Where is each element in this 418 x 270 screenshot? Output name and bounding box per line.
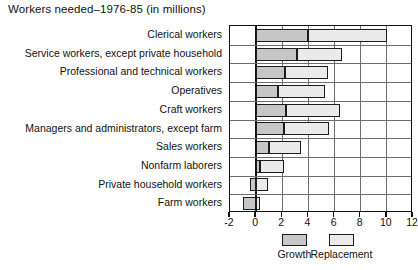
- category-label: Sales workers: [156, 137, 222, 156]
- bar-segment-replacement: [269, 141, 300, 154]
- bar-segment-replacement: [285, 66, 328, 79]
- x-axis-tick-labels: -2024681012: [229, 216, 412, 230]
- bar-segment-growth: [256, 29, 308, 42]
- bar-segment-replacement: [278, 85, 325, 98]
- x-axis-tick-label: 8: [357, 216, 363, 228]
- vertical-gridline: [360, 26, 361, 211]
- category-label: Service workers, except private househol…: [25, 44, 222, 63]
- bar-segment-replacement: [286, 104, 340, 117]
- category-label: Managers and administrators, except farm: [25, 119, 222, 138]
- horizontal-gridline: [230, 157, 411, 158]
- bar-segment-replacement: [256, 197, 260, 210]
- bar-segment-growth: [256, 141, 269, 154]
- x-axis-tick-label: 2: [278, 216, 284, 228]
- horizontal-gridline: [230, 120, 411, 121]
- category-label: Clerical workers: [147, 25, 222, 44]
- category-label: Professional and technical workers: [60, 62, 222, 81]
- horizontal-gridline: [230, 63, 411, 64]
- horizontal-gridline: [230, 82, 411, 83]
- category-label: Private household workers: [98, 175, 222, 194]
- x-axis-tick-label: 0: [252, 216, 258, 228]
- bar-segment-replacement: [256, 178, 268, 191]
- bar-segment-replacement: [297, 48, 343, 61]
- category-axis-labels: Clerical workersService workers, except …: [0, 25, 227, 212]
- category-label: Craft workers: [160, 100, 222, 119]
- legend-entry: Replacement: [301, 234, 381, 260]
- x-axis-tick-label: 4: [305, 216, 311, 228]
- x-axis-tick-label: 10: [380, 216, 392, 228]
- bar-segment-growth: [256, 104, 286, 117]
- horizontal-gridline: [230, 45, 411, 46]
- horizontal-gridline: [230, 101, 411, 102]
- bar-segment-growth: [256, 66, 285, 79]
- category-label: Farm workers: [158, 193, 222, 212]
- bar-segment-growth: [256, 122, 283, 135]
- x-axis-tick-label: -2: [224, 216, 233, 228]
- bar-segment-replacement: [284, 122, 330, 135]
- legend-swatch: [329, 234, 354, 246]
- vertical-gridline: [386, 26, 387, 211]
- chart-title: Workers needed–1976-85 (in millions): [8, 3, 206, 15]
- bar-segment-replacement: [308, 29, 386, 42]
- bar-segment-growth: [256, 48, 297, 61]
- horizontal-gridline: [230, 176, 411, 177]
- category-label: Operatives: [171, 81, 222, 100]
- category-label: Nonfarm laborers: [141, 156, 222, 175]
- bar-segment-growth: [243, 197, 256, 210]
- chart-legend: GrowthReplacement: [229, 234, 412, 266]
- plot-area: [229, 25, 412, 212]
- bar-segment-growth: [256, 85, 278, 98]
- horizontal-gridline: [230, 194, 411, 195]
- legend-label: Replacement: [301, 248, 381, 260]
- horizontal-gridline: [230, 138, 411, 139]
- x-axis-tick-label: 12: [406, 216, 418, 228]
- x-axis-tick-label: 6: [331, 216, 337, 228]
- bar-segment-replacement: [260, 160, 284, 173]
- bar-segment-growth: [250, 178, 257, 191]
